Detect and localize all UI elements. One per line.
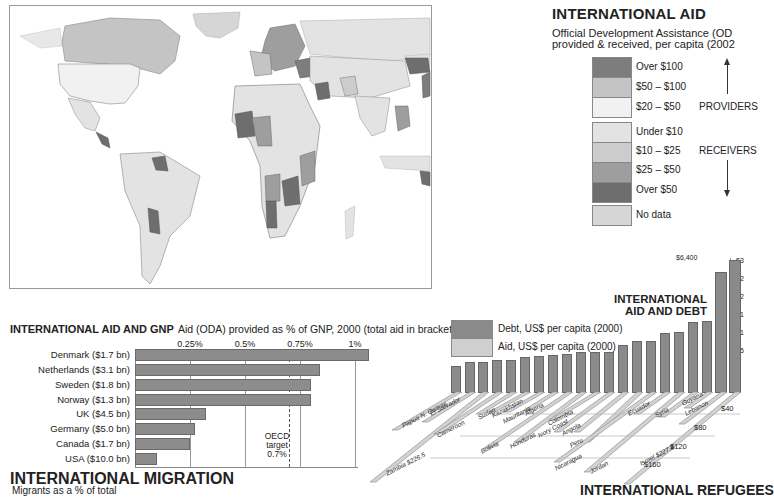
legend-label-no-data: No data [636, 209, 671, 220]
legend-label-debt: Debt, US$ per capita (2000) [498, 323, 623, 334]
debt-bar [451, 366, 461, 393]
gnp-tick-075: 0.75% [287, 339, 313, 349]
legend-label-50-100: $50 – $100 [636, 81, 686, 92]
debt-bar [478, 362, 488, 393]
legend-swatch-over-50 [593, 183, 631, 202]
providers-arrow-line [727, 64, 728, 94]
legend-swatch-25-50 [593, 163, 631, 183]
gnp-row-label-norway: Norway ($1.3 bn) [57, 394, 130, 405]
aid-scale-label-40: $40 [721, 404, 734, 413]
international-aid-title: INTERNATIONAL AID [552, 5, 706, 22]
legend-label-10-25: $10 – $25 [636, 145, 681, 156]
international-aid-subtitle-line2: provided & received, per capita (2002 [552, 38, 735, 50]
aid-debt-title-line2: AID AND DEBT [614, 305, 707, 317]
refugees-title: INTERNATIONAL REFUGEES [580, 482, 774, 498]
debt-bar [576, 352, 586, 393]
debt-bar [688, 322, 698, 393]
legend-swatch-over-100 [593, 58, 631, 78]
providers-legend [592, 57, 632, 118]
aid-scale-label-120: $120 [670, 442, 687, 451]
gnp-row-label-denmark: Denmark ($1.7 bn) [51, 349, 130, 360]
debt-bar [506, 360, 516, 393]
aid-debt-title-line1: INTERNATIONAL [614, 293, 707, 305]
receivers-legend [592, 122, 632, 203]
debt-bar [465, 362, 475, 393]
debt-bar [534, 356, 544, 393]
aid-debt-title: INTERNATIONAL AID AND DEBT [614, 293, 707, 317]
legend-swatch-debt [451, 320, 493, 339]
debt-bar [660, 333, 670, 393]
gnp-bar-uk [135, 408, 206, 420]
debt-bar [492, 360, 502, 393]
gnp-row-label-canada: Canada ($1.7 bn) [56, 438, 130, 449]
gnp-row-label-usa: USA ($10.0 bn) [65, 453, 130, 464]
arrow-down-icon [724, 190, 730, 197]
legend-label-20-50: $20 – $50 [636, 101, 681, 112]
legend-label-aid: Aid, US$ per capita (2000) [498, 341, 616, 352]
oecd-target-label: OECD target 0.7% [262, 432, 292, 459]
debt-bar [548, 355, 558, 393]
legend-swatch-aid [451, 338, 493, 357]
gnp-row-label-netherlands: Netherlands ($3.1 bn) [38, 364, 130, 375]
legend-label-25-50: $25 – $50 [636, 164, 681, 175]
gnp-bar-canada [135, 438, 190, 450]
gnp-row-label-sweden: Sweden ($1.8 bn) [55, 379, 130, 390]
legend-swatch-20-50 [593, 98, 631, 117]
providers-label: PROVIDERS [699, 101, 758, 112]
debt-bar [646, 341, 656, 393]
debt-bar [618, 345, 628, 393]
gnp-tick-1: 1% [348, 339, 361, 349]
gnp-tick-05: 0.5% [235, 339, 256, 349]
debt-bar [520, 357, 530, 393]
world-map [9, 5, 432, 289]
receivers-arrow-line [727, 160, 728, 190]
receivers-label: RECEIVERS [699, 145, 757, 156]
legend-swatch-no-data [593, 206, 631, 225]
gnp-bar-sweden [135, 379, 311, 391]
debt-bar [702, 321, 712, 393]
gnp-bar-usa [135, 453, 157, 465]
legend-swatch-under-10 [593, 123, 631, 143]
gnp-bar-netherlands [135, 364, 320, 376]
gnp-row-label-germany: Germany ($5.0 bn) [50, 423, 130, 434]
debt-bar [715, 272, 727, 393]
gnp-tick-025: 0.25% [177, 339, 203, 349]
no-data-legend [592, 205, 632, 226]
aid-gnp-title: INTERNATIONAL AID AND GNP [10, 323, 174, 335]
legend-swatch-50-100 [593, 78, 631, 98]
debt-peak-label: $6,400 [676, 254, 697, 261]
debt-bar [632, 341, 642, 393]
legend-swatch-10-25 [593, 143, 631, 163]
gnp-gridline [355, 349, 356, 467]
gnp-bar-denmark [135, 349, 369, 361]
gnp-row-label-uk: UK ($4.5 bn) [76, 408, 130, 419]
oecd-label-line3: 0.7% [262, 450, 292, 459]
gnp-bar-norway [135, 394, 311, 406]
legend-label-under-10: Under $10 [636, 126, 683, 137]
migration-subtitle: Migrants as a % of total [12, 485, 117, 496]
world-map-svg [10, 6, 431, 288]
legend-label-over-50: Over $50 [636, 184, 677, 195]
debt-bar [674, 332, 684, 393]
debt-bar [562, 354, 572, 393]
legend-label-over-100: Over $100 [636, 61, 683, 72]
gnp-bar-germany [135, 423, 195, 435]
debt-bar [604, 352, 614, 393]
debt-bar [729, 260, 741, 393]
aid-scale-label-80: $80 [694, 423, 707, 432]
aid-gnp-subtitle: Aid (ODA) provided as % of GNP, 2000 (to… [178, 323, 461, 335]
debt-bar [590, 352, 600, 393]
aid-scale-label-160: $160 [644, 460, 661, 469]
